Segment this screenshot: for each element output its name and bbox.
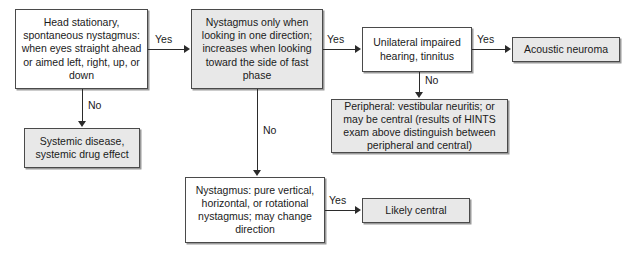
edge-label-nystagmus-to-pure-vertical: No — [263, 124, 276, 136]
edge-nystagmus-to-unilateral-arrowhead — [355, 45, 361, 53]
edge-nystagmus-to-pure-vertical — [257, 89, 258, 171]
edge-label-head-to-systemic: No — [88, 99, 101, 111]
edge-label-nystagmus-to-unilateral: Yes — [327, 33, 344, 45]
edge-label-pure-vertical-to-likely-central: Yes — [329, 194, 346, 206]
edge-label-head-to-nystagmus: Yes — [155, 33, 172, 45]
node-head-stationary: Head stationary, spontaneous nystagmus: … — [15, 9, 148, 89]
edge-label-unilateral-to-peripheral: No — [425, 74, 438, 86]
edge-nystagmus-to-unilateral — [323, 49, 356, 50]
edge-unilateral-to-peripheral-arrowhead — [415, 92, 423, 98]
node-nystagmus-pure-vertical: Nystagmus: pure vertical, horizontal, or… — [185, 177, 325, 243]
node-systemic-disease-label: Systemic disease, systemic drug effect — [29, 135, 135, 161]
node-likely-central-label: Likely central — [367, 204, 465, 217]
node-peripheral-vestibular-label: Peripheral: vestibular neuritis; or may … — [336, 100, 503, 153]
node-nystagmus-one-direction: Nystagmus only when looking in one direc… — [191, 9, 323, 89]
edge-head-to-nystagmus — [148, 49, 185, 50]
edge-pure-vertical-to-likely-central — [325, 210, 356, 211]
edge-label-unilateral-to-acoustic: Yes — [477, 33, 494, 45]
node-acoustic-neuroma: Acoustic neuroma — [512, 37, 620, 62]
edge-pure-vertical-to-likely-central-arrowhead — [355, 206, 361, 214]
node-head-stationary-label: Head stationary, spontaneous nystagmus: … — [20, 16, 143, 82]
edge-head-to-systemic-arrowhead — [78, 121, 86, 127]
edge-head-to-nystagmus-arrowhead — [184, 45, 190, 53]
node-likely-central: Likely central — [362, 198, 470, 223]
edge-unilateral-to-peripheral — [419, 72, 420, 93]
node-nystagmus-pure-vertical-label: Nystagmus: pure vertical, horizontal, or… — [190, 184, 320, 237]
edge-unilateral-to-acoustic — [472, 49, 506, 50]
node-nystagmus-one-direction-label: Nystagmus only when looking in one direc… — [196, 16, 318, 82]
edge-nystagmus-to-pure-vertical-arrowhead — [253, 170, 261, 176]
flowchart-canvas: Head stationary, spontaneous nystagmus: … — [0, 0, 631, 259]
edge-unilateral-to-acoustic-arrowhead — [505, 45, 511, 53]
edge-head-to-systemic — [82, 89, 83, 122]
node-unilateral-hearing: Unilateral impaired hearing, tinnitus — [362, 27, 472, 72]
node-acoustic-neuroma-label: Acoustic neuroma — [517, 43, 615, 56]
node-unilateral-hearing-label: Unilateral impaired hearing, tinnitus — [367, 36, 467, 62]
node-systemic-disease: Systemic disease, systemic drug effect — [24, 128, 140, 168]
node-peripheral-vestibular: Peripheral: vestibular neuritis; or may … — [331, 99, 508, 153]
